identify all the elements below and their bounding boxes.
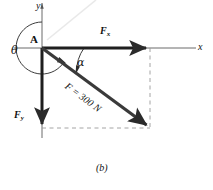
figure-caption: (b)	[96, 163, 108, 173]
fx-vector-label-subscript: x	[107, 30, 111, 38]
scan-artifact-line	[47, 0, 96, 40]
origin-point-label: A	[30, 34, 38, 45]
fx-vector-label-base: F	[100, 25, 107, 36]
y-axis-label: y	[36, 1, 40, 11]
fy-vector-label-subscript: y	[21, 114, 24, 122]
fx-vector-label: Fx	[100, 26, 110, 38]
alpha-angle-label: α	[77, 57, 84, 68]
fy-vector-label-base: F	[14, 109, 21, 120]
force-vector-figure: y x A θ α Fx Fy F = 300 N (b)	[0, 0, 213, 190]
x-axis-label: x	[198, 42, 202, 52]
resultant-force-vector-arrow	[42, 48, 147, 125]
theta-angle-label: θ	[11, 45, 18, 56]
fy-vector-label: Fy	[14, 110, 24, 122]
